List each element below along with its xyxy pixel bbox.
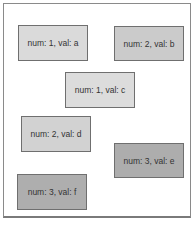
node-d: num: 2, val: d [21, 116, 91, 152]
node-b: num: 2, val: b [114, 26, 184, 61]
node-a: num: 1, val: a [18, 25, 88, 61]
node-b-label: num: 2, val: b [123, 39, 174, 49]
node-a-label: num: 1, val: a [27, 38, 78, 48]
node-f-label: num: 3, val: f [28, 187, 77, 197]
node-f: num: 3, val: f [17, 174, 87, 210]
node-c-label: num: 1, val: c [75, 85, 126, 95]
node-e: num: 3, val: e [114, 143, 184, 178]
node-c: num: 1, val: c [65, 72, 135, 108]
node-d-label: num: 2, val: d [30, 129, 81, 139]
node-e-label: num: 3, val: e [123, 156, 174, 166]
